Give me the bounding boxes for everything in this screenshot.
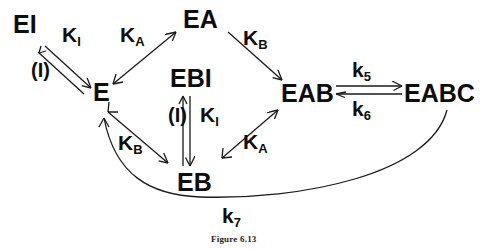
label-KI-bottom: KI [200,104,219,125]
label-KB-top: KB [243,27,268,48]
node-EBI: EBI [170,66,212,91]
label-KA-bottom-sub: A [258,141,267,156]
label-KA-bottom-base: K [243,130,258,153]
figure-container: EI E EA EBI EB EAB EABC KI (I) KA KB KB … [0,0,490,249]
label-k5-base: k [352,58,364,81]
label-KA-top-base: K [120,23,135,46]
label-KA-bottom: KA [243,131,268,152]
label-k5: k5 [352,59,371,80]
label-k6-base: k [352,97,364,120]
label-KA-top-sub: A [135,34,144,49]
label-k6: k6 [352,98,371,119]
label-k7-sub: 7 [234,215,241,230]
figure-caption: Figure 6.13 [211,234,257,244]
node-EI: EI [13,12,37,37]
label-KB-top-base: K [243,26,258,49]
label-KB-bottom-sub: B [133,142,142,157]
label-inhibitor-bottom: (I) [168,105,187,125]
label-k6-sub: 6 [364,108,371,123]
label-KI-bottom-sub: I [215,114,219,129]
node-EABC: EABC [404,81,475,106]
label-KI-bottom-base: K [200,103,215,126]
node-EA: EA [183,7,218,32]
label-KB-bottom: KB [118,132,143,153]
label-k7-base: k [222,204,234,227]
label-KI-top: KI [62,24,81,45]
label-KB-top-sub: B [258,37,267,52]
label-inhibitor-top: (I) [31,60,50,80]
arrow-EABC-to-EAB-reverse [336,92,402,98]
label-KI-top-sub: I [77,34,81,49]
label-KB-bottom-base: K [118,131,133,154]
label-k5-sub: 5 [364,69,371,84]
label-KA-top: KA [120,24,145,45]
node-EAB: EAB [281,81,334,106]
node-E: E [93,80,110,105]
node-EB: EB [177,170,212,195]
label-k7: k7 [222,205,241,226]
arrow-EABC-to-E-k7 [99,110,447,197]
label-KI-top-base: K [62,23,77,46]
